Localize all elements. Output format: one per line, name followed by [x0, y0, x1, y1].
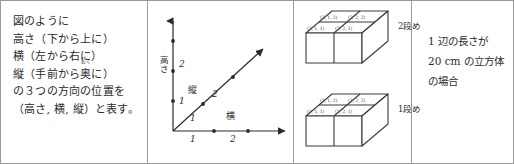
- cube-label-upper-back-right: (2, 2, 2): [348, 15, 365, 20]
- cube-label-lower-front-right: (1, 2, 1): [335, 109, 352, 114]
- cube-label-upper-front-right: (2, 2, 1): [335, 26, 352, 31]
- explanation-line-5: （高さ, 横, 縦）と表す。: [13, 101, 143, 119]
- horizontal-tick-label-2: 2: [230, 134, 236, 144]
- note-line-3: の場合: [428, 71, 514, 91]
- diagonal-tick-1: [201, 102, 205, 106]
- tier-label-upper: 2段め: [398, 19, 421, 31]
- axes-panel: 高さ 1 2 横 1 2 縦 1 2: [147, 1, 293, 164]
- vertical-tick-2: [171, 69, 175, 73]
- horizontal-tick-2: [246, 129, 250, 133]
- ruby-base: 奥: [80, 68, 91, 81]
- explanation-line-3: 横（左から右に）: [13, 48, 143, 66]
- explanation-line-1: 図のように: [13, 13, 143, 31]
- diagonal-tick-label-1: 1: [190, 113, 196, 123]
- horizontal-axis-label: 横: [226, 109, 235, 122]
- note-line-2: 20 cm の立方体: [428, 51, 514, 71]
- diagonal-tick-2: [231, 75, 235, 79]
- cube-label-lower-back-right: (1, 2, 2): [348, 98, 365, 103]
- ruby-group-oku: おく奥: [80, 66, 91, 84]
- cube-label-lower-back-left: (1, 1, 2): [320, 98, 337, 103]
- tier-label-lower: 1段め: [398, 102, 421, 114]
- horizontal-tick-1: [212, 129, 216, 133]
- note-text-block: 1 辺の長さが 20 cm の立方体 の場合: [428, 31, 514, 91]
- cubes-panel: (2, 1, 2) (2, 2, 2) (2, 1, 1) (2, 2, 1) …: [293, 1, 411, 164]
- axes-diagram-svg: [148, 1, 294, 164]
- explanation-panel: 図のように 高さ（下から上に） 横（左から右に） 縦（手前からおく奥に） の３つ…: [1, 1, 147, 164]
- vertical-tick-3: [171, 39, 175, 43]
- cube-label-lower-front-left: (1, 1, 1): [307, 109, 324, 114]
- vertical-tick-1: [171, 99, 175, 103]
- figure-container: 図のように 高さ（下から上に） 横（左から右に） 縦（手前からおく奥に） の３つ…: [0, 0, 514, 164]
- ruby-line-suffix: に）: [91, 68, 113, 81]
- explanation-line-2: 高さ（下から上に）: [13, 31, 143, 49]
- diagonal-axis-line: [173, 49, 263, 131]
- ruby-annotation: おく: [81, 59, 91, 64]
- note-line-1: 1 辺の長さが: [428, 31, 514, 51]
- cube-label-upper-back-left: (2, 1, 2): [320, 15, 337, 20]
- ruby-line-prefix: 縦（手前から: [13, 68, 80, 81]
- vertical-axis-label: 高さ: [158, 56, 167, 74]
- explanation-line-ruby: 縦（手前からおく奥に）: [13, 66, 143, 84]
- vertical-tick-label-1: 1: [179, 96, 185, 106]
- explanation-text-block: 図のように 高さ（下から上に） 横（左から右に） 縦（手前からおく奥に） の３つ…: [13, 13, 143, 118]
- diagonal-axis-label: 縦: [188, 83, 197, 96]
- note-panel: 2段め 1段め 1 辺の長さが 20 cm の立方体 の場合: [411, 1, 514, 164]
- diagonal-tick-label-2: 2: [212, 89, 218, 99]
- horizontal-tick-label-1: 1: [190, 134, 196, 144]
- vertical-tick-label-2: 2: [179, 59, 185, 69]
- explanation-line-4: の３つの方向の位置を: [13, 83, 143, 101]
- cube-label-upper-front-left: (2, 1, 1): [307, 26, 324, 31]
